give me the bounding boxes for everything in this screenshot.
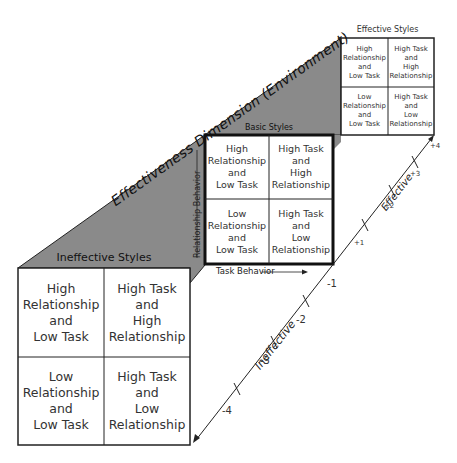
effective-cell-lr-lt: Low Relationship and Low Task [341, 87, 388, 135]
basic-cell-hr-lt: High Relationship and Low Task [205, 135, 269, 199]
basic-cell-lr-lt: Low Relationship and Low Task [205, 199, 269, 264]
tick-minus-4: -4 [222, 405, 232, 416]
ineffective-styles-title: Ineffective Styles [18, 252, 190, 265]
effective-styles-title: Effective Styles [341, 25, 434, 34]
basic-cell-ht-lr: High Task and Low Relationship [269, 199, 333, 264]
effective-cell-hr-lt: High Relationship and Low Task [341, 38, 388, 87]
tick-minus-3: -3 [260, 355, 270, 366]
basic-styles-title: Basic Styles [205, 123, 333, 132]
tick-plus-4: +4 [430, 142, 440, 150]
ineffective-cell-hr-lt: High Relationship and Low Task [18, 268, 104, 357]
tick-plus-1: +1 [354, 239, 364, 247]
relationship-behavior-label: Relationship Behavior [193, 171, 202, 258]
basic-cell-ht-hr: High Task and High Relationship [269, 135, 333, 199]
task-behavior-label: Task Behavior [216, 266, 275, 276]
tick-minus-1: -1 [327, 278, 337, 289]
ineffective-cell-lr-lt: Low Relationship and Low Task [18, 357, 104, 445]
ineffective-cell-ht-lr: High Task and Low Relationship [104, 357, 190, 445]
effective-cell-ht-hr: High Task and High Relationship [388, 38, 434, 87]
tick-plus-3: +3 [410, 170, 420, 178]
ineffective-cell-ht-hr: High Task and High Relationship [104, 268, 190, 357]
effective-cell-ht-lr: High Task and Low Relationship [388, 87, 434, 135]
tick-minus-2: -2 [296, 314, 306, 325]
tick-plus-2: +2 [384, 202, 394, 210]
